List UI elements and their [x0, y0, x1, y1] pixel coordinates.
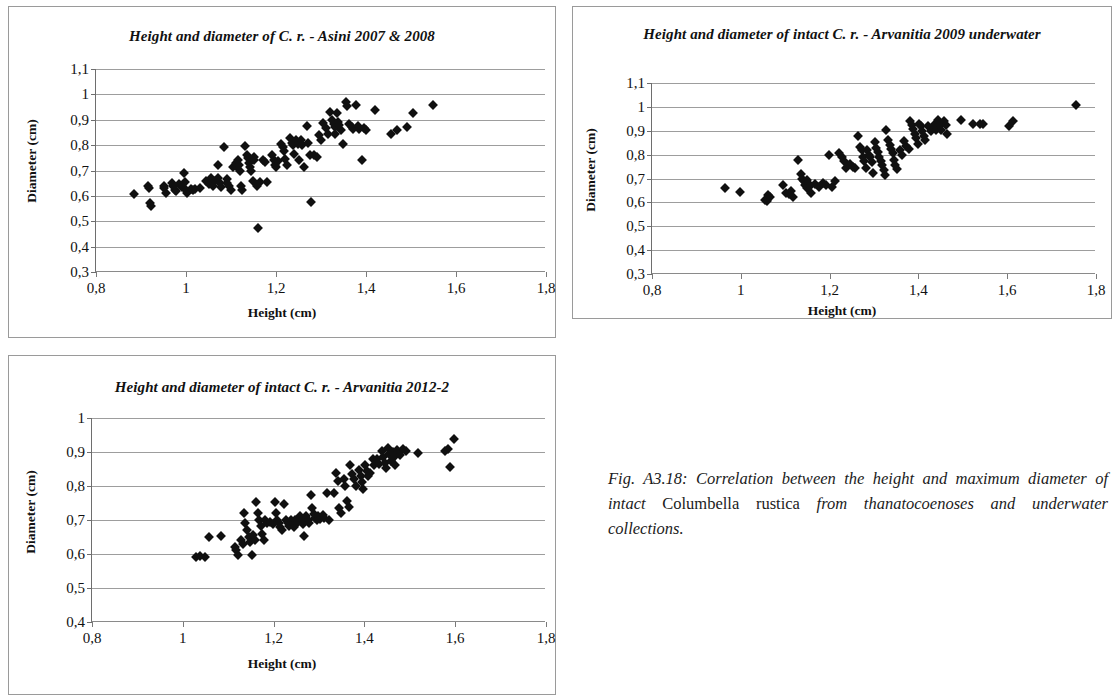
- data-point: [413, 448, 423, 458]
- data-point: [370, 105, 380, 115]
- gridline-horizontal: [652, 131, 1095, 132]
- y-axis-tick-label-asini: 0,7: [70, 162, 89, 179]
- data-point: [357, 155, 367, 165]
- gridline-horizontal: [96, 247, 545, 248]
- x-axis-tick-asini: [96, 272, 97, 277]
- data-point: [340, 481, 350, 491]
- data-point: [408, 108, 418, 118]
- x-axis-tick-label-asini: 1: [182, 280, 190, 297]
- gridline-horizontal: [652, 107, 1095, 108]
- y-axis-tick-arvanitia-2012: [87, 486, 92, 487]
- y-axis-tick-label-arvanitia-2009: 0,5: [626, 218, 645, 235]
- x-axis-tick-arvanitia-2012: [274, 622, 275, 627]
- y-axis-tick-arvanitia-2009: [647, 226, 652, 227]
- data-point: [306, 490, 316, 500]
- data-point: [956, 115, 966, 125]
- data-point: [240, 141, 250, 151]
- x-axis-tick-asini: [366, 272, 367, 277]
- chart-panel-asini: Height and diameter of C. r. - Asini 200…: [8, 6, 556, 338]
- y-axis-tick-label-arvanitia-2012: 0,6: [66, 546, 85, 563]
- data-point: [390, 460, 400, 470]
- y-axis-tick-label-arvanitia-2012: 0,9: [66, 444, 85, 461]
- gridline-horizontal: [92, 486, 545, 487]
- data-point: [449, 434, 459, 444]
- y-axis-tick-asini: [91, 247, 96, 248]
- x-axis-tick-arvanitia-2012: [364, 622, 365, 627]
- x-axis-tick-label-arvanitia-2012: 1,2: [264, 630, 283, 647]
- y-axis-tick-label-arvanitia-2012: 0,7: [66, 512, 85, 529]
- figure-caption: Fig. A3.18: Correlation between the heig…: [608, 466, 1108, 541]
- data-point: [306, 197, 316, 207]
- y-axis-tick-label-arvanitia-2012: 1: [78, 410, 86, 427]
- gridline-horizontal: [92, 588, 545, 589]
- y-axis-tick-label-asini: 0,6: [70, 187, 89, 204]
- data-point: [259, 535, 269, 545]
- data-point: [793, 155, 803, 165]
- x-axis-tick-label-arvanitia-2009: 0,8: [643, 282, 662, 299]
- gridline-horizontal: [652, 202, 1095, 203]
- y-axis-tick-asini: [91, 196, 96, 197]
- x-axis-tick-asini: [186, 272, 187, 277]
- gridline-horizontal: [92, 452, 545, 453]
- y-axis-tick-label-asini: 0,4: [70, 238, 89, 255]
- gridline-horizontal: [92, 554, 545, 555]
- y-axis-tick-arvanitia-2012: [87, 588, 92, 589]
- y-axis-tick-label-asini: 1,1: [70, 61, 89, 78]
- y-axis-tick-arvanitia-2012: [87, 554, 92, 555]
- plot-wrapper-asini: 0,30,40,50,60,70,80,911,10,811,21,41,61,…: [9, 7, 555, 337]
- x-axis-tick-label-arvanitia-2012: 1,4: [355, 630, 374, 647]
- x-axis-tick-label-arvanitia-2012: 0,8: [83, 630, 102, 647]
- y-axis-tick-label-arvanitia-2012: 0,4: [66, 614, 85, 631]
- data-point: [213, 160, 223, 170]
- x-axis-tick-asini: [546, 272, 547, 277]
- data-point: [345, 460, 355, 470]
- data-point: [302, 121, 312, 131]
- data-point: [253, 223, 263, 233]
- data-point: [892, 164, 902, 174]
- x-axis-tick-arvanitia-2009: [918, 274, 919, 279]
- gridline-horizontal: [96, 94, 545, 95]
- x-axis-tick-arvanitia-2012: [546, 622, 547, 627]
- x-axis-tick-label-asini: 1,4: [357, 280, 376, 297]
- y-axis-tick-label-arvanitia-2009: 0,4: [626, 242, 645, 259]
- x-axis-tick-arvanitia-2012: [183, 622, 184, 627]
- gridline-horizontal: [652, 83, 1095, 84]
- x-axis-tick-asini: [276, 272, 277, 277]
- y-axis-tick-asini: [91, 145, 96, 146]
- plot-wrapper-arvanitia-2009: 0,30,40,50,60,70,80,911,10,811,21,41,61,…: [573, 7, 1111, 318]
- plot-area-asini: 0,30,40,50,60,70,80,911,10,811,21,41,61,…: [95, 69, 545, 272]
- y-axis-tick-label-arvanitia-2009: 1,1: [626, 75, 645, 92]
- data-point: [216, 531, 226, 541]
- x-axis-tick-label-asini: 0,8: [87, 280, 106, 297]
- y-axis-tick-label-arvanitia-2012: 0,8: [66, 478, 85, 495]
- gridline-horizontal: [652, 250, 1095, 251]
- x-axis-tick-arvanitia-2012: [92, 622, 93, 627]
- y-axis-tick-arvanitia-2012: [87, 452, 92, 453]
- data-point: [850, 164, 860, 174]
- y-axis-tick-arvanitia-2009: [647, 155, 652, 156]
- x-axis-tick-label-arvanitia-2009: 1,6: [998, 282, 1017, 299]
- y-axis-tick-label-arvanitia-2009: 0,3: [626, 266, 645, 283]
- x-axis-tick-label-arvanitia-2009: 1,4: [909, 282, 928, 299]
- x-axis-tick-arvanitia-2009: [741, 274, 742, 279]
- y-axis-tick-label-asini: 0,8: [70, 137, 89, 154]
- x-axis-tick-arvanitia-2009: [1096, 274, 1097, 279]
- data-point: [868, 168, 878, 178]
- data-point: [204, 532, 214, 542]
- x-axis-tick-arvanitia-2009: [652, 274, 653, 279]
- y-axis-tick-asini: [91, 171, 96, 172]
- data-point: [329, 488, 339, 498]
- y-axis-tick-label-asini: 0,9: [70, 111, 89, 128]
- y-axis-tick-label-arvanitia-2009: 1: [638, 98, 646, 115]
- data-point: [788, 192, 798, 202]
- data-point: [428, 100, 438, 110]
- x-axis-tick-asini: [456, 272, 457, 277]
- data-point: [824, 150, 834, 160]
- data-point: [262, 177, 272, 187]
- data-point: [270, 497, 280, 507]
- x-axis-title-arvanitia-2009: Height (cm): [573, 303, 1111, 319]
- y-axis-tick-arvanitia-2009: [647, 179, 652, 180]
- y-axis-tick-arvanitia-2012: [87, 418, 92, 419]
- x-axis-tick-label-arvanitia-2009: 1,2: [820, 282, 839, 299]
- gridline-horizontal: [96, 69, 545, 70]
